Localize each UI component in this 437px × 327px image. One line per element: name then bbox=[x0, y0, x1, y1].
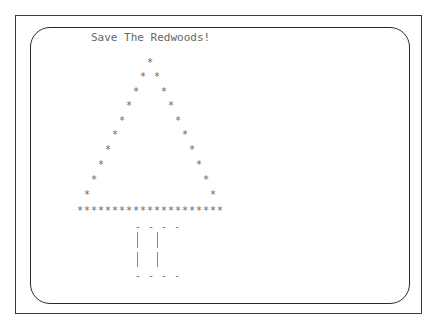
tree-base-star: * bbox=[119, 206, 125, 216]
tree-left-star: * bbox=[84, 190, 90, 200]
tree-right-star: * bbox=[203, 175, 209, 185]
trunk-top-edge: - - - - bbox=[135, 222, 181, 232]
tree-base-star: * bbox=[182, 206, 188, 216]
tree-right-star: * bbox=[210, 190, 216, 200]
tree-apex-star: * bbox=[147, 58, 153, 68]
tree-right-star: * bbox=[161, 87, 167, 97]
tree-left-star: * bbox=[140, 72, 146, 82]
tree-right-star: * bbox=[168, 101, 174, 111]
tree-base-star: * bbox=[84, 206, 90, 216]
tree-base-star: * bbox=[112, 206, 118, 216]
ascii-tree-drawing: ****************************************… bbox=[0, 0, 437, 327]
tree-base-star: * bbox=[217, 206, 223, 216]
tree-base-star: * bbox=[140, 206, 146, 216]
tree-base-star: * bbox=[77, 206, 83, 216]
trunk-left-side bbox=[137, 252, 138, 267]
tree-base-star: * bbox=[98, 206, 104, 216]
tree-right-star: * bbox=[175, 116, 181, 126]
tree-left-star: * bbox=[105, 145, 111, 155]
trunk-right-side bbox=[157, 232, 158, 248]
trunk-right-side bbox=[157, 252, 158, 267]
tree-left-star: * bbox=[98, 160, 104, 170]
tree-base-star: * bbox=[133, 206, 139, 216]
tree-base-star: * bbox=[105, 206, 111, 216]
tree-right-star: * bbox=[154, 72, 160, 82]
tree-base-star: * bbox=[161, 206, 167, 216]
tree-base-star: * bbox=[203, 206, 209, 216]
tree-base-star: * bbox=[168, 206, 174, 216]
tree-right-star: * bbox=[182, 130, 188, 140]
trunk-bottom-edge: - - - - bbox=[135, 271, 181, 281]
tree-right-star: * bbox=[189, 145, 195, 155]
tree-left-star: * bbox=[133, 87, 139, 97]
tree-base-star: * bbox=[196, 206, 202, 216]
tree-left-star: * bbox=[91, 175, 97, 185]
tree-base-star: * bbox=[189, 206, 195, 216]
tree-left-star: * bbox=[112, 130, 118, 140]
trunk-left-side bbox=[137, 232, 138, 248]
tree-left-star: * bbox=[126, 101, 132, 111]
tree-base-star: * bbox=[175, 206, 181, 216]
tree-base-star: * bbox=[154, 206, 160, 216]
tree-right-star: * bbox=[196, 160, 202, 170]
tree-left-star: * bbox=[119, 116, 125, 126]
tree-base-star: * bbox=[210, 206, 216, 216]
tree-base-star: * bbox=[126, 206, 132, 216]
tree-base-star: * bbox=[147, 206, 153, 216]
tree-base-star: * bbox=[91, 206, 97, 216]
